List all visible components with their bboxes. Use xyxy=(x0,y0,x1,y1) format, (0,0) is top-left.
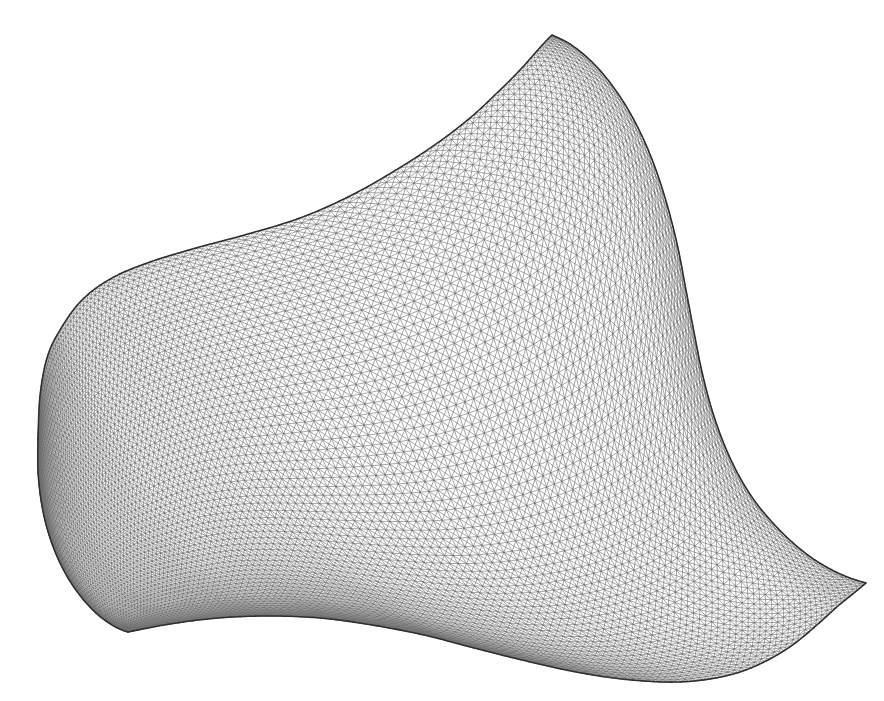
triangular-mesh-svg: Triangular finite element mesh on a curv… xyxy=(0,0,884,701)
mesh-figure-root: Triangular finite element mesh on a curv… xyxy=(0,0,884,701)
